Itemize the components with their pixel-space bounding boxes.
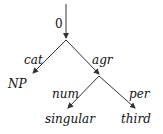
- third-leaf-label: third: [121, 112, 151, 126]
- singular-leaf-label: singular: [45, 112, 96, 126]
- np-leaf-label: NP: [7, 77, 28, 91]
- cat-edge-label: cat: [24, 53, 43, 67]
- num-edge-label: num: [52, 87, 79, 101]
- root-node-label: 0: [55, 17, 63, 31]
- per-edge-label: per: [129, 87, 151, 101]
- feature-structure-diagram: 0 cat NP agr num singular per third: [0, 0, 163, 134]
- agr-edge-label: agr: [92, 53, 114, 67]
